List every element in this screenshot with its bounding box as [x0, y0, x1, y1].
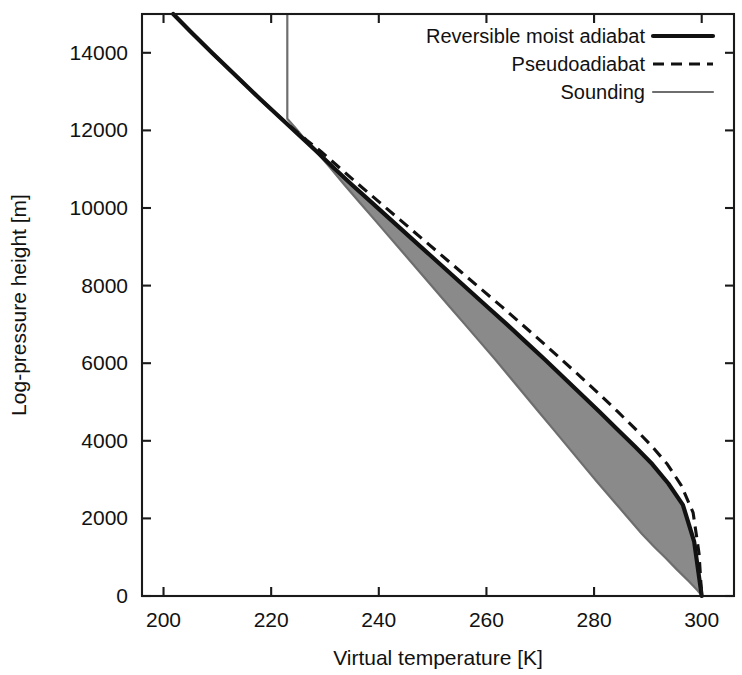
x-tick-label: 240 [361, 608, 396, 631]
y-tick-label: 2000 [81, 506, 128, 529]
legend-label-reversible-moist-adiabat: Reversible moist adiabat [426, 25, 645, 47]
legend-label-sounding: Sounding [560, 81, 645, 103]
x-tick-label: 300 [684, 608, 719, 631]
x-tick-label: 280 [577, 608, 612, 631]
y-tick-label: 6000 [81, 351, 128, 374]
legend-label-pseudoadiabat: Pseudoadiabat [512, 53, 646, 75]
axis-tick-labels: 2002202402602803000200040006000800010000… [70, 41, 720, 631]
y-tick-label: 14000 [70, 41, 128, 64]
y-tick-label: 10000 [70, 196, 128, 219]
y-tick-label: 0 [116, 584, 128, 607]
x-axis-title: Virtual temperature [K] [333, 646, 543, 669]
y-tick-label: 12000 [70, 118, 128, 141]
x-tick-label: 200 [146, 608, 181, 631]
y-tick-label: 8000 [81, 274, 128, 297]
x-tick-label: 220 [254, 608, 289, 631]
x-tick-label: 260 [469, 608, 504, 631]
y-tick-label: 4000 [81, 429, 128, 452]
chart-legend: Reversible moist adiabatPseudoadiabatSou… [426, 25, 713, 103]
virtual-temperature-profile-chart: 2002202402602803000200040006000800010000… [0, 0, 742, 675]
chart-figure: 2002202402602803000200040006000800010000… [0, 0, 742, 675]
y-axis-title: Log-pressure height [m] [7, 194, 30, 416]
